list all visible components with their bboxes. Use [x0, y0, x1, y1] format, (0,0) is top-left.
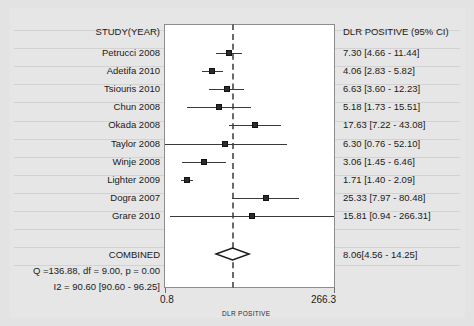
x-tick-max [334, 288, 335, 293]
effect-marker [252, 122, 258, 128]
result-label: 25.33 [7.97 - 80.48] [343, 192, 425, 203]
study-label: Tsiouris 2010 [0, 83, 160, 94]
result-label: 6.63 [3.60 - 12.23] [343, 83, 420, 94]
result-label: 1.71 [1.40 - 2.09] [343, 174, 415, 185]
result-label: 15.81 [0.94 - 266.31] [343, 210, 431, 221]
study-label: Grare 2010 [0, 210, 160, 221]
result-label: 3.06 [1.45 - 6.46] [343, 156, 415, 167]
study-label: Petrucci 2008 [0, 47, 160, 58]
x-tick-label-max: 266.3 [311, 294, 336, 305]
effect-marker [249, 213, 255, 219]
effect-marker [209, 68, 215, 74]
effect-marker [226, 50, 232, 56]
effect-marker [224, 86, 230, 92]
x-axis-title: DLR POSITIVE [222, 310, 270, 317]
x-tick-min [165, 288, 166, 293]
heterogeneity-q: Q =136.88, df = 9.00, p = 0.00 [0, 265, 160, 276]
study-label: Dogra 2007 [0, 192, 160, 203]
effect-marker [263, 195, 269, 201]
effect-marker [222, 141, 228, 147]
effect-marker [201, 159, 207, 165]
summary-diamond [212, 246, 253, 262]
heterogeneity-i2: I2 = 90.60 [90.60 - 96.25] [0, 281, 160, 292]
summary-label: COMBINED [0, 249, 160, 260]
result-label: 4.06 [2.83 - 5.82] [343, 65, 415, 76]
study-label: Chun 2008 [0, 101, 160, 112]
study-label: Taylor 2008 [0, 138, 160, 149]
column-header-study: STUDY(YEAR) [0, 26, 160, 37]
chart-canvas: STUDY(YEAR) DLR POSITIVE (95% CI) Petruc… [0, 0, 474, 326]
column-header-study-label: STUDY(YEAR) [96, 26, 160, 37]
study-label: Winje 2008 [0, 156, 160, 167]
result-label: 17.63 [7.22 - 43.08] [343, 119, 425, 130]
summary-result: 8.06[4.56 - 14.25] [343, 249, 417, 260]
effect-marker [184, 177, 190, 183]
result-label: 5.18 [1.73 - 15.51] [343, 101, 420, 112]
x-tick-label-min: 0.8 [160, 294, 174, 305]
study-label: Adetifa 2010 [0, 65, 160, 76]
result-label: 6.30 [0.76 - 52.10] [343, 138, 420, 149]
study-label: Okada 2008 [0, 119, 160, 130]
column-header-result: DLR POSITIVE (95% CI) [343, 26, 449, 37]
study-label: Lighter 2009 [0, 174, 160, 185]
effect-marker [216, 104, 222, 110]
result-label: 7.30 [4.66 - 11.44] [343, 47, 419, 58]
